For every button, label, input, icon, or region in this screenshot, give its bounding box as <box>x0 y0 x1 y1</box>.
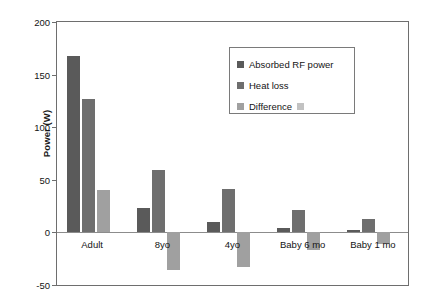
legend-item: Difference <box>237 97 354 115</box>
legend-item: Heat loss <box>237 76 354 94</box>
x-axis-tick-label: Baby 1 mo <box>313 239 433 250</box>
legend-swatch-trailing-icon <box>297 103 304 110</box>
bar <box>347 230 360 232</box>
y-axis-tick-label: 150 <box>15 69 57 80</box>
legend-item-label: Difference <box>249 101 292 112</box>
bar <box>277 228 290 232</box>
y-axis-tick-label: 100 <box>15 122 57 133</box>
legend-swatch-icon <box>237 103 244 110</box>
legend-swatch-icon <box>237 82 244 89</box>
bar <box>67 56 80 233</box>
y-axis-tick-label: 50 <box>15 174 57 185</box>
bar <box>222 189 235 232</box>
chart-figure: Power (W) 200150100500-50Adult8yo4yoBaby… <box>0 0 435 307</box>
legend-swatch-icon <box>237 61 244 68</box>
bar <box>207 222 220 233</box>
bar <box>97 190 110 232</box>
chart-legend: Absorbed RF powerHeat lossDifference <box>229 47 355 114</box>
legend-item: Absorbed RF power <box>237 55 354 73</box>
y-axis-tick-label: -50 <box>15 280 57 291</box>
y-axis-tick-label: 200 <box>15 17 57 28</box>
legend-item-label: Absorbed RF power <box>249 59 333 70</box>
y-axis-tick-mark <box>52 285 57 286</box>
y-axis-tick-label: 0 <box>15 227 57 238</box>
bar <box>152 170 165 232</box>
bar <box>292 210 305 232</box>
bar <box>82 99 95 233</box>
bar <box>362 219 375 233</box>
bar <box>167 232 180 270</box>
legend-item-label: Heat loss <box>249 80 289 91</box>
bar <box>137 208 150 232</box>
